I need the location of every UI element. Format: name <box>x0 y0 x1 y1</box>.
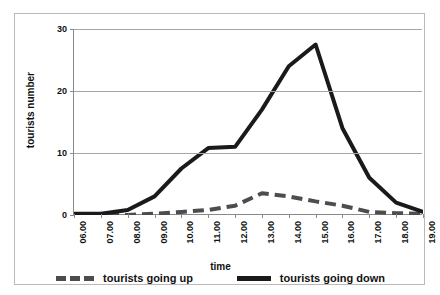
x-axis-tick-label: 10.00 <box>185 221 195 244</box>
x-axis-tick <box>369 214 370 218</box>
x-axis-tick-label: 09.00 <box>159 221 169 244</box>
x-axis-tick-label: 14.00 <box>293 221 303 244</box>
gridline <box>74 29 422 30</box>
y-axis-tick-label: 10 <box>57 148 67 158</box>
x-axis-tick <box>262 214 263 218</box>
legend-label: tourists going up <box>103 272 193 284</box>
x-axis-tick-label: 11.00 <box>212 221 222 243</box>
x-axis-tick-label: 16.00 <box>346 221 356 244</box>
series-line-tourists-going-down <box>74 45 423 214</box>
x-axis-tick-label: 07.00 <box>105 221 115 244</box>
x-axis-tick-label: 13.00 <box>266 221 276 244</box>
x-axis-tick-label: 12.00 <box>239 221 249 244</box>
x-axis-tick <box>155 214 156 218</box>
x-axis-tick <box>289 214 290 218</box>
x-axis-tick-label: 08.00 <box>132 221 142 244</box>
x-axis-tick-label: 15.00 <box>320 221 330 244</box>
x-axis-tick <box>101 214 102 218</box>
x-axis-tick <box>208 214 209 218</box>
x-axis-tick-label: 17.00 <box>373 221 383 244</box>
x-axis-tick <box>181 214 182 218</box>
y-axis-tick <box>70 153 74 154</box>
gridline <box>74 91 422 92</box>
legend-item-tourists-going-down[interactable]: tourists going down <box>237 272 385 284</box>
x-axis-tick <box>316 214 317 218</box>
legend-swatch-dashed-icon <box>56 276 94 281</box>
x-axis-tick-label: 06.00 <box>78 221 88 244</box>
series-layer <box>74 29 423 215</box>
x-axis-tick <box>423 214 424 218</box>
chart-frame: tourists number 0102030 06.0007.0008.000… <box>14 13 425 285</box>
x-axis-tick-label: 18.00 <box>400 221 410 244</box>
legend-label: tourists going down <box>280 272 385 284</box>
y-axis-title: tourists number <box>25 72 36 148</box>
y-axis-tick <box>70 91 74 92</box>
gridline <box>74 153 422 154</box>
x-axis-tick <box>235 214 236 218</box>
x-axis-tick <box>396 214 397 218</box>
y-axis-tick-label: 0 <box>62 210 67 220</box>
y-axis-tick-label: 30 <box>57 24 67 34</box>
x-axis-tick <box>74 214 75 218</box>
chart-legend: tourists going up tourists going down <box>15 272 426 284</box>
x-axis-tick <box>128 214 129 218</box>
y-axis-tick-label: 20 <box>57 86 67 96</box>
x-axis-tick-label: 19.00 <box>427 221 437 244</box>
plot-area: 0102030 06.0007.0008.0009.0010.0011.0012… <box>73 29 422 215</box>
y-axis-tick <box>70 29 74 30</box>
x-axis-title: time <box>15 261 426 272</box>
x-axis-tick <box>342 214 343 218</box>
legend-item-tourists-going-up[interactable]: tourists going up <box>56 272 193 284</box>
legend-swatch-solid-icon <box>237 276 271 281</box>
